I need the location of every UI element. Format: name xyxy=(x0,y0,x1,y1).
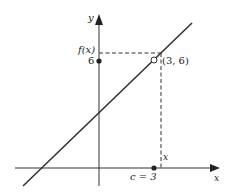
x-axis-arrow-icon xyxy=(210,164,220,172)
fx-label: f(x) xyxy=(78,45,95,55)
y-axis-dot xyxy=(96,58,101,63)
six-label: 6 xyxy=(88,56,94,66)
point-label: (3, 6) xyxy=(162,56,189,66)
x-near-label: x xyxy=(163,153,168,162)
x-axis-label: x xyxy=(214,174,219,183)
y-axis-label: y xyxy=(88,13,94,23)
limit-diagram: y x f(x) 6 (3, 6) x c = 3 xyxy=(0,0,230,196)
open-circle-point xyxy=(151,57,157,63)
x-axis-dot xyxy=(151,165,156,170)
diagram-canvas xyxy=(0,0,230,196)
y-axis-arrow-icon xyxy=(95,14,103,25)
c-equals-label: c = 3 xyxy=(130,172,157,182)
